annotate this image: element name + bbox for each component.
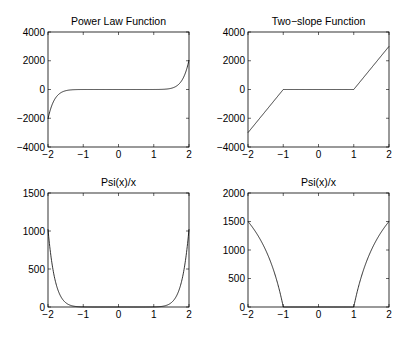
y-tick-label: 1500 — [223, 216, 246, 227]
y-tick-label: −4000 — [17, 142, 46, 153]
chart-title: Two−slope Function — [272, 15, 366, 27]
x-tick-label: 2 — [186, 149, 192, 160]
y-tick-label: 1000 — [223, 245, 246, 256]
y-tick-label: 0 — [239, 302, 245, 313]
y-tick-label: 500 — [228, 273, 245, 284]
chart-title: Psi(x)/x — [101, 176, 137, 188]
axes-box — [48, 193, 189, 307]
y-tick-label: 2000 — [223, 55, 246, 66]
x-tick-label: 0 — [116, 309, 122, 320]
x-tick-label: 2 — [386, 309, 392, 320]
x-tick-label: 0 — [316, 309, 322, 320]
chart-title: Psi(x)/x — [301, 176, 337, 188]
y-tick-label: 500 — [28, 264, 45, 275]
y-tick-label: 4000 — [223, 27, 246, 38]
axes-box — [248, 193, 389, 307]
x-tick-label: 0 — [116, 149, 122, 160]
x-tick-label: 1 — [351, 309, 357, 320]
y-tick-label: −2000 — [17, 113, 46, 124]
x-tick-label: 1 — [351, 149, 357, 160]
y-tick-label: −2000 — [217, 113, 246, 124]
x-tick-label: 1 — [151, 149, 157, 160]
y-tick-label: 4000 — [23, 27, 46, 38]
y-tick-label: 0 — [39, 302, 45, 313]
subplot-3: −2−1012050010001500Psi(x)/x — [23, 176, 192, 320]
x-tick-label: −1 — [278, 149, 290, 160]
x-tick-label: 2 — [186, 309, 192, 320]
subplot-1: −2−1012−4000−2000020004000Power Law Func… — [17, 15, 192, 160]
y-tick-label: 2000 — [223, 188, 246, 199]
y-tick-label: 2000 — [23, 55, 46, 66]
y-tick-label: 1000 — [23, 226, 46, 237]
y-tick-label: 1500 — [23, 188, 46, 199]
x-tick-label: −1 — [278, 309, 290, 320]
x-tick-label: −1 — [78, 149, 90, 160]
y-tick-label: 0 — [39, 84, 45, 95]
figure: −2−1012−4000−2000020004000Power Law Func… — [0, 0, 414, 341]
x-tick-label: 2 — [386, 149, 392, 160]
y-tick-label: 0 — [239, 84, 245, 95]
x-tick-label: 1 — [151, 309, 157, 320]
chart-title: Power Law Function — [71, 15, 166, 27]
y-tick-label: −4000 — [217, 142, 246, 153]
x-tick-label: −1 — [78, 309, 90, 320]
subplot-2: −2−1012−4000−2000020004000Two−slope Func… — [217, 15, 392, 160]
x-tick-label: 0 — [316, 149, 322, 160]
subplot-4: −2−10120500100015002000Psi(x)/x — [223, 176, 392, 320]
